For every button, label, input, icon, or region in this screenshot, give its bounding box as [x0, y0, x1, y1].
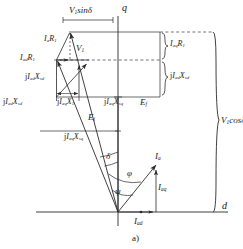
v1-cos-delta-label: V1cosδ — [221, 116, 243, 125]
psi-angle-label: ψ — [115, 187, 121, 196]
v1-cos-delta-brace — [213, 32, 219, 212]
jiadxsd-inner-label: jIadXsd — [25, 73, 44, 82]
v1-sin-delta-label: V1sinδ — [69, 6, 92, 15]
ia-label: Ia — [155, 152, 161, 161]
ia-phasor — [118, 165, 156, 212]
q-axis-label: q — [122, 2, 127, 13]
figure-caption: a) — [132, 233, 139, 243]
reactance-parallelogram — [57, 60, 90, 101]
ei-label: Ei — [88, 113, 95, 122]
v1-sin-delta-dimension — [63, 17, 113, 23]
phasor-diagram-canvas — [0, 0, 243, 249]
jiaqxsq-upper-label: jIaqXsq — [104, 98, 123, 107]
ia-r1-triangle — [57, 33, 71, 60]
iaq-r1-label: IaqR1 — [170, 40, 185, 49]
jiadxsd-left-label: jIadXsd — [3, 98, 22, 107]
iad-label: Iad — [134, 217, 142, 226]
jiaqx1-dimension — [57, 92, 78, 95]
iad-r1-label: IadR1 — [20, 54, 35, 63]
iaq-r1-brace — [162, 33, 168, 59]
phasor-diagram-figure: q d V1sinδ IaR1 V1 IadR1 IaqR1 jIadXsd j… — [0, 0, 243, 249]
d-axis-label: d — [222, 200, 227, 211]
iad-component — [118, 211, 153, 214]
delta-angle-label: δ — [106, 152, 110, 161]
jiadxsd-brace — [162, 62, 168, 95]
v1-label: V1 — [76, 44, 84, 53]
iaq-label: Iaq — [158, 183, 166, 192]
jiaqx1-label: jIaqX1 — [57, 98, 74, 107]
ia-r1-label: IaR1 — [44, 35, 57, 44]
jiadxsd-brace-label: jIadXsd — [170, 72, 189, 81]
ef-label: Ef — [140, 98, 147, 107]
phi-angle-arc — [109, 174, 142, 183]
jiaqxsq-lower-label: jIaqXsq — [64, 133, 83, 142]
phi-angle-label: φ — [127, 169, 132, 178]
